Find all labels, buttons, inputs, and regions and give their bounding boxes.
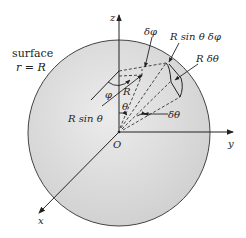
- origin-label: O: [113, 139, 121, 150]
- r-sin-theta-delta-phi-label: R sin θ δφ: [169, 31, 221, 42]
- phi-label: φ: [105, 89, 112, 100]
- y-axis-label: y: [227, 138, 234, 149]
- r-sin-theta-label: R sin θ: [67, 113, 103, 124]
- radius-label: R: [122, 86, 131, 97]
- spherical-coordinates-diagram: surface r = R z y x O δφ R sin θ δφ R δθ…: [0, 0, 246, 238]
- theta-label: θ: [122, 101, 128, 112]
- surface-radius-label: r = R: [16, 61, 46, 74]
- x-axis-label: x: [38, 215, 44, 226]
- surface-label: surface: [12, 47, 53, 60]
- delta-phi-label: δφ: [144, 26, 157, 37]
- z-axis-label: z: [109, 12, 116, 23]
- r-delta-theta-label: R δθ: [195, 53, 219, 64]
- origin-dot: [118, 131, 121, 134]
- delta-theta-label: δθ: [168, 109, 180, 120]
